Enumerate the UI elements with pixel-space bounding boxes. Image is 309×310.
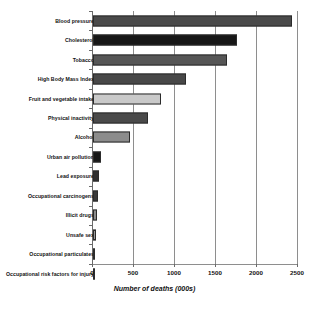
- bar: [93, 35, 237, 46]
- bar-row: Cholesterol: [0, 30, 309, 49]
- bar-row: Physical inactivity: [0, 108, 309, 127]
- y-axis-tick: [89, 50, 92, 51]
- x-tick-label: 1500: [208, 269, 222, 276]
- bar-row: Alcohol: [0, 128, 309, 147]
- category-label: Cholesterol: [65, 37, 94, 43]
- y-axis-tick: [89, 206, 92, 207]
- x-axis-tick: [174, 264, 175, 267]
- x-axis-tick: [92, 264, 93, 267]
- x-axis-tick: [133, 264, 134, 267]
- category-label: Occupational risk factors for injury: [6, 271, 94, 277]
- bar: [93, 229, 96, 240]
- category-label: Fruit and vegetable intake: [29, 96, 94, 102]
- bar-row: Fruit and vegetable intake: [0, 89, 309, 108]
- y-axis-tick: [89, 244, 92, 245]
- bar: [93, 190, 98, 201]
- y-axis-tick: [89, 89, 92, 90]
- bar-rows: Blood pressure Cholesterol Tobacco High …: [0, 11, 309, 264]
- bar-row: Occupational particulates: [0, 244, 309, 263]
- y-axis-tick: [89, 128, 92, 129]
- bar: [93, 210, 97, 221]
- bar-row: Blood pressure: [0, 11, 309, 30]
- y-axis-tick: [89, 186, 92, 187]
- category-label: Illicit drugs: [66, 212, 94, 218]
- x-tick-label: 500: [128, 269, 138, 276]
- bar: [93, 15, 292, 26]
- y-axis-tick: [89, 11, 92, 12]
- bar-row: Lead exposure: [0, 167, 309, 186]
- bar-row: Illicit drugs: [0, 206, 309, 225]
- y-axis-tick: [89, 225, 92, 226]
- bar: [93, 151, 101, 162]
- bar: [93, 74, 186, 85]
- bar-row: Occupational carcinogens: [0, 186, 309, 205]
- category-label: Urban air pollution: [47, 154, 94, 160]
- category-label: Lead exposure: [57, 173, 94, 179]
- bar: [93, 112, 148, 123]
- bar-chart: Blood pressure Cholesterol Tobacco High …: [0, 0, 309, 310]
- bar: [93, 249, 95, 260]
- bar-row: Unsafe sex: [0, 225, 309, 244]
- x-tick-label: 2500: [290, 269, 304, 276]
- x-axis-title: Number of deaths (000s): [0, 285, 309, 292]
- y-axis-tick: [89, 108, 92, 109]
- x-tick-label: 2000: [249, 269, 263, 276]
- category-label: Unsafe sex: [66, 232, 94, 238]
- bar: [93, 132, 130, 143]
- x-tick-label: 0: [90, 269, 93, 276]
- category-label: Blood pressure: [55, 18, 94, 24]
- bar: [93, 54, 227, 65]
- category-label: Physical inactivity: [48, 115, 94, 121]
- y-axis-tick: [89, 30, 92, 31]
- category-label: Occupational particulates: [29, 251, 94, 257]
- bar-row: High Body Mass Index: [0, 69, 309, 88]
- bar-row: Tobacco: [0, 50, 309, 69]
- bar-row: Urban air pollution: [0, 147, 309, 166]
- y-axis-tick: [89, 167, 92, 168]
- category-label: High Body Mass Index: [38, 76, 94, 82]
- bar: [93, 93, 161, 104]
- category-label: Alcohol: [75, 134, 94, 140]
- category-label: Tobacco: [73, 57, 94, 63]
- x-axis-tick: [215, 264, 216, 267]
- bar: [93, 171, 99, 182]
- x-axis-tick: [297, 264, 298, 267]
- y-axis-tick: [89, 69, 92, 70]
- x-tick-label: 1000: [167, 269, 181, 276]
- x-axis-tick: [256, 264, 257, 267]
- category-label: Occupational carcinogens: [28, 193, 94, 199]
- y-axis-tick: [89, 147, 92, 148]
